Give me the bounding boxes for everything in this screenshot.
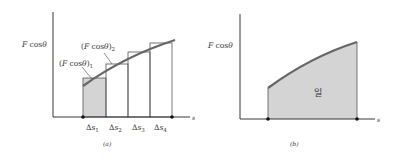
start-point-dot	[266, 117, 270, 121]
shaded-area	[268, 42, 357, 119]
rectangle-4	[150, 43, 172, 117]
interval-label-1: Δs1	[86, 123, 99, 133]
annotation-f-cos-theta-1: (F cosθ)1	[59, 59, 93, 69]
x-axis-label: s	[192, 114, 195, 121]
caption-b: (b)	[290, 140, 299, 147]
leader-line-2	[104, 53, 112, 64]
annotation-f-cos-theta-2: (F cosθ)2	[81, 42, 115, 52]
start-point-dot	[81, 115, 85, 119]
y-axis-label: F cosθ	[21, 40, 47, 49]
interval-label-3: Δs3	[132, 123, 145, 133]
panel-b: F cosθ s 일 (b)	[207, 14, 380, 147]
interval-label-4: Δs4	[154, 123, 167, 133]
interval-label-2: Δs2	[109, 123, 122, 133]
panel-a: F cosθ s (F cosθ)1 (F cosθ)2 Δs1 Δs2 Δs3…	[21, 12, 195, 147]
rectangle-2	[106, 64, 128, 117]
rectangle-3	[128, 52, 150, 117]
work-integral-diagram: F cosθ s (F cosθ)1 (F cosθ)2 Δs1 Δs2 Δs3…	[0, 0, 399, 159]
x-axis-label: s	[377, 116, 380, 123]
y-axis-label: F cosθ	[207, 41, 233, 50]
end-point-dot	[355, 117, 359, 121]
end-point-dot	[170, 115, 174, 119]
area-label: 일	[314, 88, 322, 98]
caption-a: (a)	[103, 140, 112, 147]
